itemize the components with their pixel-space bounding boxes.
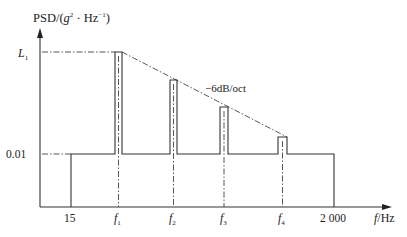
y-tick-L1: L1 xyxy=(17,46,29,62)
x-tick-f1: f1 xyxy=(114,211,121,227)
x-axis-label: f/Hz xyxy=(374,211,395,225)
y-tick-0.01: 0.01 xyxy=(6,148,26,160)
x-tick-2000: 2 000 xyxy=(320,212,346,224)
y-axis-label: PSD/(g2 · Hz−1) xyxy=(33,11,110,25)
x-tick-f4: f4 xyxy=(278,211,285,227)
y-axis xyxy=(37,28,43,207)
x-tick-15: 15 xyxy=(64,212,76,224)
psd-chart: PSD/(g2 · Hz−1) L1 0.01 −6dB/oct 15 f1 f… xyxy=(0,0,407,237)
envelope-6db-oct-line xyxy=(122,52,287,137)
y-axis-arrow-icon xyxy=(37,28,43,38)
slope-annotation: −6dB/oct xyxy=(205,82,246,94)
x-tick-f3: f3 xyxy=(220,211,227,227)
psd-spectrum xyxy=(71,52,334,207)
x-tick-labels: 15 f1 f2 f3 f4 2 000 xyxy=(64,211,346,227)
x-tick-f2: f2 xyxy=(169,211,176,227)
x-axis-arrow-icon xyxy=(382,204,392,210)
x-axis xyxy=(40,204,392,210)
frequency-markers xyxy=(119,56,283,207)
